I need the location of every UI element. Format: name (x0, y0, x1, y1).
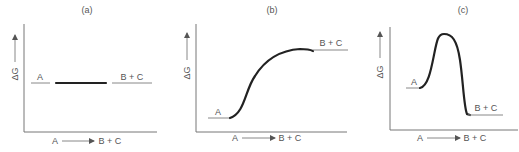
panel-b-y-label: ΔG (182, 66, 192, 79)
panel-a-title: (a) (82, 5, 93, 15)
panel-a-x-end: B + C (99, 136, 122, 146)
panel-b-title: (b) (267, 5, 278, 15)
panel-a-start-label: A (37, 72, 43, 82)
panel-c-x-start: A (417, 133, 423, 143)
panel-c-title: (c) (458, 5, 469, 15)
panel-c-y-label: ΔG (375, 65, 385, 78)
panel-c: (c) ΔG A B + C A B + C (375, 5, 518, 143)
panel-b: (b) ΔG A B + C A B + C (182, 5, 348, 143)
panel-c-end-label: B + C (475, 103, 498, 113)
free-energy-diagrams: (a) ΔG A B + C A B + C (b) ΔG A B + C A … (0, 0, 519, 152)
panel-a: (a) ΔG A B + C A B + C (10, 5, 157, 146)
panel-a-y-label: ΔG (10, 67, 20, 80)
panel-c-x-end: B + C (464, 133, 487, 143)
panel-b-start-label: A (215, 107, 221, 117)
panel-c-start-label: A (411, 77, 417, 87)
panel-b-end-label: B + C (320, 38, 343, 48)
panel-a-end-label: B + C (121, 72, 144, 82)
panel-b-curve (230, 49, 313, 118)
panel-b-x-end: B + C (279, 133, 302, 143)
panel-a-x-start: A (52, 136, 58, 146)
panel-b-x-start: A (232, 133, 238, 143)
panel-c-curve (420, 34, 470, 115)
